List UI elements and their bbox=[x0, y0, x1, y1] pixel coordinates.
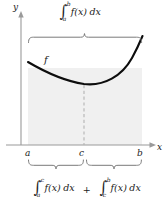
upper-limit: b bbox=[67, 1, 71, 7]
differential: dx bbox=[90, 7, 101, 17]
top-integral-expression: ∫ b a f(x) dx bbox=[59, 3, 101, 20]
lower-limit: a bbox=[37, 192, 41, 198]
y-axis-arrowhead bbox=[18, 11, 23, 18]
y-axis-label: y bbox=[13, 2, 18, 12]
x-tick-label-a: a bbox=[25, 148, 30, 158]
lower-limit: c bbox=[103, 192, 107, 198]
brace-bottom-a-to-c bbox=[29, 160, 84, 169]
plus-operator: + bbox=[83, 184, 91, 195]
bottom-integral-expression: ∫ c a f(x) dx + ∫ b c f(x) dx bbox=[33, 179, 141, 196]
shaded-region bbox=[28, 68, 142, 145]
upper-limit: b bbox=[107, 177, 111, 183]
brace-top-a-to-b bbox=[29, 34, 142, 43]
integral-sign: ∫ b c bbox=[99, 179, 109, 196]
integral-a-to-b: ∫ b a f(x) dx bbox=[59, 3, 101, 20]
integral-c-to-b: ∫ b c f(x) dx bbox=[99, 179, 141, 196]
function-label: f bbox=[44, 54, 48, 65]
integral-limits: b a bbox=[65, 3, 69, 20]
integral-additivity-figure: y x a c b f ∫ b a f(x) dx ∫ c a bbox=[0, 0, 168, 207]
integrand: f(x) bbox=[44, 183, 60, 193]
x-axis-label: x bbox=[157, 142, 162, 152]
figure-canvas bbox=[0, 0, 168, 207]
brace-bottom-c-to-b bbox=[87, 160, 142, 169]
upper-limit: c bbox=[41, 177, 45, 183]
x-axis-arrowhead bbox=[150, 142, 157, 147]
integral-limits: b c bbox=[105, 179, 109, 196]
integral-limits: c a bbox=[39, 179, 43, 196]
x-tick-label-b: b bbox=[137, 148, 143, 158]
lower-limit: a bbox=[63, 16, 67, 22]
integral-sign: ∫ b a bbox=[59, 3, 69, 20]
x-tick-label-c: c bbox=[79, 148, 84, 158]
integral-sign: ∫ c a bbox=[33, 179, 43, 196]
differential: dx bbox=[63, 183, 74, 193]
integral-a-to-c: ∫ c a f(x) dx bbox=[33, 179, 75, 196]
differential: dx bbox=[129, 183, 140, 193]
integrand: f(x) bbox=[111, 183, 127, 193]
integrand: f(x) bbox=[71, 7, 87, 17]
